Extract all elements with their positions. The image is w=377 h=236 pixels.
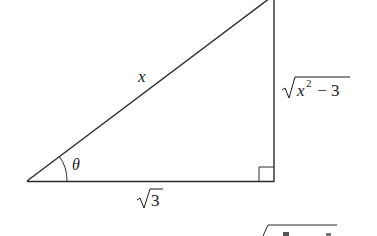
adjacent-label: 3 (137, 189, 163, 210)
partial-bottom-formula (263, 225, 337, 236)
opposite-rest: − 3 (313, 81, 340, 100)
opposite-label: x 2 − 3 (282, 77, 350, 100)
right-triangle-diagram: θ x x 2 − 3 3 (0, 0, 377, 236)
opposite-var: x (296, 81, 305, 100)
angle-arc (59, 156, 67, 181)
right-angle-marker (259, 167, 274, 181)
hypotenuse-side (27, 0, 270, 181)
opposite-exponent: 2 (306, 77, 312, 89)
adjacent-radicand: 3 (151, 191, 160, 210)
hypotenuse-label: x (137, 67, 146, 86)
angle-label: θ (72, 156, 80, 173)
